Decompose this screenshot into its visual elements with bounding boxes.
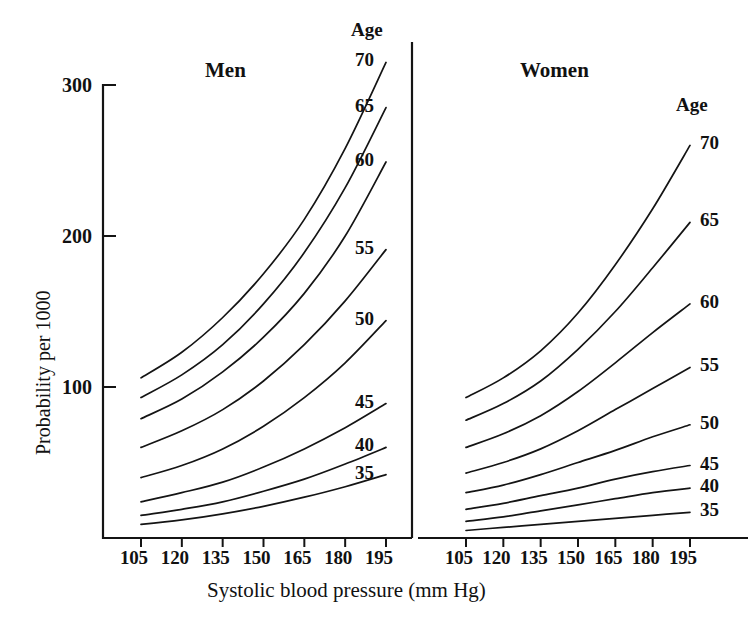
x-tick-label-men-150: 150 xyxy=(243,548,271,567)
x-tick-label-women-105: 105 xyxy=(445,548,473,567)
y-tick-label-200: 200 xyxy=(44,226,92,246)
curves xyxy=(141,62,690,530)
series-label-women-45: 45 xyxy=(700,454,719,473)
panel-title-women: Women xyxy=(520,60,589,81)
curve-women-age-55 xyxy=(466,367,690,473)
series-label-men-45: 45 xyxy=(355,392,374,411)
x-tick-label-men-165: 165 xyxy=(283,548,311,567)
x-tick-label-women-150: 150 xyxy=(557,548,585,567)
age-header-men: Age xyxy=(351,20,383,39)
series-label-women-50: 50 xyxy=(700,413,719,432)
series-label-women-35: 35 xyxy=(700,500,719,519)
y-tick-label-100: 100 xyxy=(44,377,92,397)
y-axis-title: Probability per 1000 xyxy=(32,291,55,455)
series-label-men-50: 50 xyxy=(355,309,374,328)
x-tick-label-women-120: 120 xyxy=(482,548,510,567)
series-label-women-40: 40 xyxy=(700,476,719,495)
series-label-men-65: 65 xyxy=(355,96,374,115)
series-label-men-55: 55 xyxy=(355,238,374,257)
x-tick-label-men-195: 195 xyxy=(365,548,393,567)
curve-women-age-60 xyxy=(466,304,690,448)
x-tick-label-men-105: 105 xyxy=(120,548,148,567)
x-tick-label-women-135: 135 xyxy=(520,548,548,567)
chart-figure: Probability per 1000 300 200 100 Men Wom… xyxy=(0,0,751,619)
curve-men-age-70 xyxy=(141,62,386,378)
curve-women-age-35 xyxy=(466,512,690,530)
panel-title-men: Men xyxy=(205,60,246,81)
x-tick-label-men-120: 120 xyxy=(161,548,189,567)
x-axis-title: Systolic blood pressure (mm Hg) xyxy=(207,580,486,601)
curve-women-age-70 xyxy=(466,145,690,397)
x-tick-label-men-180: 180 xyxy=(324,548,352,567)
curve-men-age-45 xyxy=(141,404,386,502)
series-label-women-70: 70 xyxy=(700,133,719,152)
series-label-men-70: 70 xyxy=(355,50,374,69)
series-label-women-55: 55 xyxy=(700,355,719,374)
series-label-men-60: 60 xyxy=(355,150,374,169)
curve-men-age-65 xyxy=(141,108,386,398)
chart-canvas xyxy=(0,0,751,619)
curve-men-age-40 xyxy=(141,447,386,515)
series-label-women-60: 60 xyxy=(700,292,719,311)
series-label-men-40: 40 xyxy=(355,435,374,454)
curve-men-age-55 xyxy=(141,250,386,448)
curve-women-age-45 xyxy=(466,466,690,510)
series-label-men-35: 35 xyxy=(355,463,374,482)
age-header-women: Age xyxy=(676,95,708,114)
x-tick-label-men-135: 135 xyxy=(202,548,230,567)
x-tick-label-women-165: 165 xyxy=(594,548,622,567)
curve-men-age-35 xyxy=(141,475,386,525)
y-tick-label-300: 300 xyxy=(44,75,92,95)
x-tick-label-women-180: 180 xyxy=(632,548,660,567)
curve-men-age-50 xyxy=(141,321,386,478)
x-tick-label-women-195: 195 xyxy=(669,548,697,567)
series-label-women-65: 65 xyxy=(700,210,719,229)
